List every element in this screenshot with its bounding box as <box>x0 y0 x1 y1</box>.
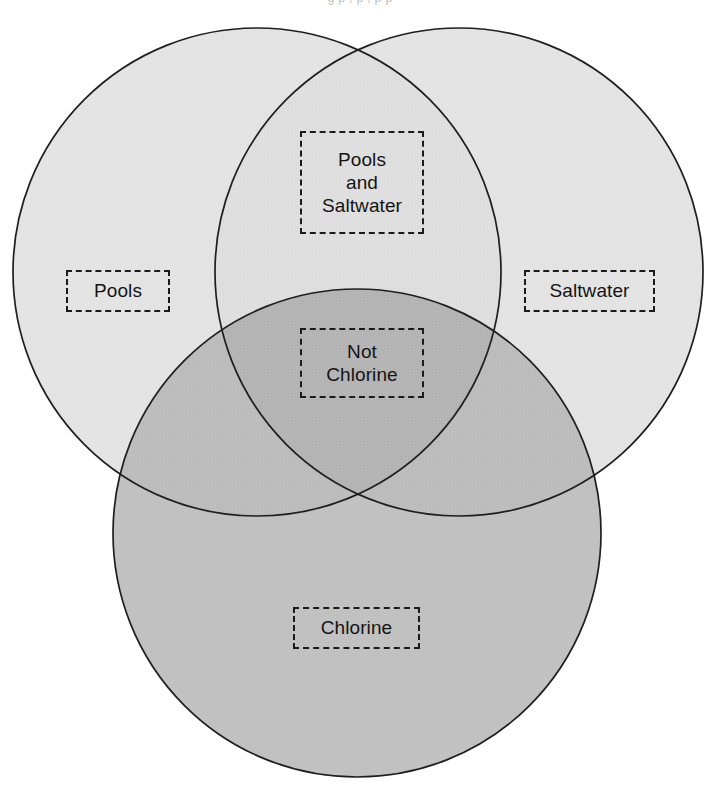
label-not-chlorine[interactable]: Not Chlorine <box>300 328 424 398</box>
label-saltwater[interactable]: Saltwater <box>524 270 655 312</box>
label-pools[interactable]: Pools <box>66 270 170 312</box>
venn-diagram-figure: g p , p , p p <box>0 0 720 792</box>
label-pools-and-saltwater[interactable]: Pools and Saltwater <box>300 131 424 234</box>
label-chlorine[interactable]: Chlorine <box>293 607 420 649</box>
